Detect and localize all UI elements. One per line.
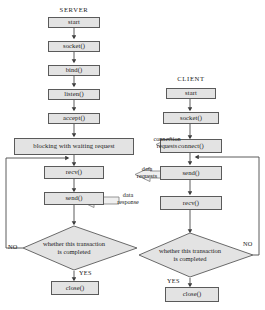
node-server-listen[interactable]: listen()	[48, 89, 100, 100]
node-client-socket[interactable]: socket()	[163, 112, 219, 124]
message-line2: requests	[136, 143, 198, 150]
node-label: close()	[66, 285, 85, 292]
node-client-start[interactable]: start	[166, 88, 216, 99]
node-label: recv()	[183, 200, 199, 207]
node-server-recv[interactable]: recv()	[44, 166, 104, 179]
node-label: start	[68, 19, 80, 26]
message-data-requests: data requests	[117, 166, 177, 179]
node-server-send[interactable]: send()	[44, 192, 104, 205]
node-server-accept[interactable]: accept()	[48, 113, 100, 124]
server-decision-line2: is completed	[14, 248, 134, 256]
node-label: start	[185, 90, 197, 97]
lane-title-server: SERVER	[48, 6, 100, 13]
node-server-start[interactable]: start	[48, 17, 100, 28]
node-label: socket()	[180, 115, 202, 122]
label-client-yes: YES	[167, 277, 180, 284]
flowchart-diagram: SERVER CLIENT start socket() bind() list…	[0, 0, 265, 310]
node-server-bind[interactable]: bind()	[48, 65, 100, 76]
node-label: socket()	[63, 43, 85, 50]
server-decision-text: whether this transaction is completed	[14, 240, 134, 256]
client-decision-line2: is completed	[130, 255, 250, 263]
message-data-response: data response	[98, 192, 158, 205]
client-decision-text: whether this transaction is completed	[130, 247, 250, 263]
message-connection-requests: connection requests	[136, 136, 198, 149]
node-label: listen()	[64, 91, 83, 98]
node-client-recv[interactable]: recv()	[160, 196, 222, 210]
node-label: bind()	[66, 67, 83, 74]
connector-layer	[0, 0, 265, 310]
message-line2: response	[98, 199, 158, 206]
node-server-close[interactable]: close()	[51, 281, 99, 295]
lane-title-client: CLIENT	[165, 75, 217, 82]
label-server-no: NO	[8, 243, 18, 250]
node-label: blocking with waiting request	[33, 143, 114, 150]
label-client-no: NO	[243, 240, 253, 247]
message-line2: requests	[117, 173, 177, 180]
node-server-socket[interactable]: socket()	[48, 41, 100, 52]
server-decision-line1: whether this transaction	[14, 240, 134, 248]
node-label: send()	[182, 170, 199, 177]
node-server-blocking[interactable]: blocking with waiting request	[14, 138, 134, 155]
node-label: accept()	[63, 115, 85, 122]
node-label: close()	[183, 291, 202, 298]
node-client-close[interactable]: close()	[165, 287, 219, 302]
client-decision-line1: whether this transaction	[130, 247, 250, 255]
node-label: recv()	[66, 169, 82, 176]
label-server-yes: YES	[79, 269, 92, 276]
node-label: send()	[65, 195, 82, 202]
